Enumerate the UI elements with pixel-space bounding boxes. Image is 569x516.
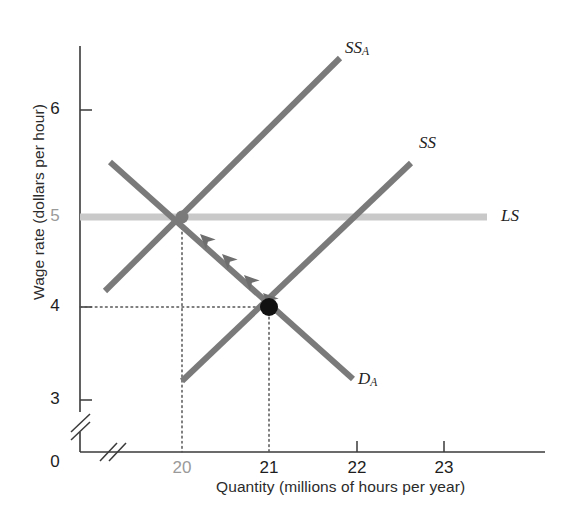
chart-figure: 6 5 4 3 0 20 21 22 23 SSA SS LS DA Wage … [0, 0, 569, 516]
curve-label-ss-text: SS [419, 133, 436, 152]
point-initial-equilibrium [260, 298, 278, 316]
y-axis-title: Wage rate (dollars per hour) [30, 104, 48, 300]
curve-label-d-a-sub: A [370, 376, 377, 388]
curve-label-d-a-text: D [358, 369, 370, 388]
curve-label-ss-a-text: SS [345, 38, 362, 57]
origin-label: 0 [44, 452, 66, 472]
curve-ss [182, 163, 411, 381]
curve-label-ss-a: SSA [345, 38, 369, 58]
curve-label-ss: SS [419, 133, 436, 153]
x-tick-label-22: 22 [336, 458, 378, 478]
curve-label-d-a: DA [358, 369, 377, 389]
curve-ss-a [105, 58, 340, 291]
curve-label-ls-text: LS [501, 206, 519, 225]
curve-label-ls: LS [501, 206, 519, 226]
x-tick-label-21: 21 [248, 458, 290, 478]
chart-canvas [0, 0, 569, 516]
x-axis-title: Quantity (millions of hours per year) [216, 478, 465, 496]
adjustment-arrows-group [195, 229, 279, 308]
point-new-equilibrium [176, 211, 189, 224]
x-tick-label-20: 20 [161, 458, 203, 478]
curve-d-a [110, 162, 353, 379]
y-tick-label-3: 3 [44, 389, 66, 409]
x-tick-label-23: 23 [423, 458, 465, 478]
curve-label-ss-a-sub: A [362, 45, 369, 57]
guide-lines-group [80, 217, 269, 452]
